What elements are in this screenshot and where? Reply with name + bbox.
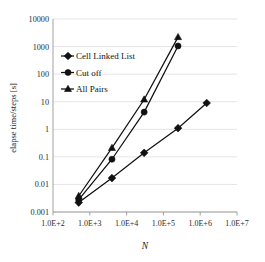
marker-circle bbox=[109, 156, 115, 162]
y-tick-label: 0.1 bbox=[39, 153, 49, 162]
x-tick-label: 1.0E+6 bbox=[188, 219, 211, 228]
y-tick-label: 1 bbox=[45, 125, 49, 134]
marker-circle bbox=[175, 43, 181, 49]
x-tick-label: 1.0E+5 bbox=[152, 219, 175, 228]
log-log-line-chart: 1000010001001010.10.010.001 1.0E+21.0E+3… bbox=[0, 0, 265, 262]
chart-container: 1000010001001010.10.010.001 1.0E+21.0E+3… bbox=[0, 0, 265, 262]
marker-circle bbox=[141, 109, 147, 115]
y-tick-label: 10 bbox=[41, 98, 49, 107]
x-axis-title: N bbox=[141, 241, 149, 251]
x-tick-label: 1.0E+2 bbox=[41, 219, 64, 228]
legend-label: Cell Linked List bbox=[76, 51, 135, 61]
y-tick-label: 100 bbox=[37, 70, 49, 79]
legend-label: Cut off bbox=[76, 68, 102, 78]
x-tick-label: 1.0E+4 bbox=[115, 219, 138, 228]
y-tick-label: 10000 bbox=[29, 15, 49, 24]
x-tick-label: 1.0E+7 bbox=[225, 219, 248, 228]
y-axis-title: elapse time/steps [s] bbox=[8, 83, 18, 153]
x-tick-label: 1.0E+3 bbox=[78, 219, 101, 228]
y-tick-label: 0.01 bbox=[35, 180, 49, 189]
y-tick-label: 1000 bbox=[33, 43, 49, 52]
marker-circle bbox=[65, 69, 71, 75]
legend-label: All Pairs bbox=[76, 84, 108, 94]
y-tick-label: 0.001 bbox=[31, 208, 49, 217]
